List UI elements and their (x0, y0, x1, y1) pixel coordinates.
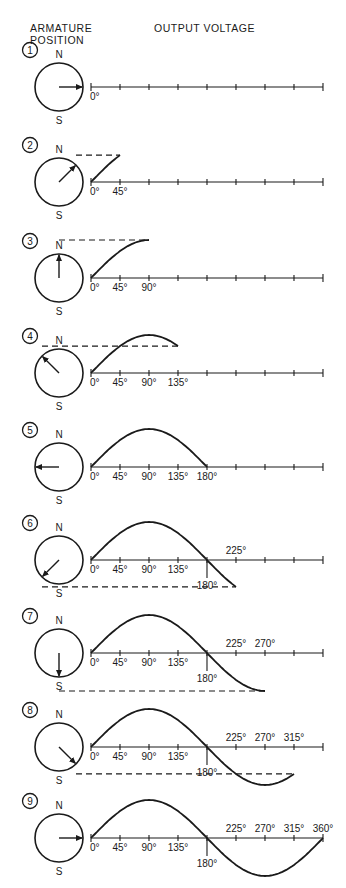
degree-label: 0° (90, 471, 100, 482)
degree-label: 315° (284, 823, 305, 834)
degree-label: 45° (112, 282, 127, 293)
voltage-sine-curve (91, 335, 178, 373)
step-number: 5 (27, 425, 33, 436)
degree-label: 0° (90, 282, 100, 293)
armature-conductor-arrow (43, 560, 59, 576)
degree-label: 90° (141, 657, 156, 668)
south-pole-label: S (56, 210, 63, 221)
voltage-sine-curve (91, 240, 149, 278)
degree-label: 90° (141, 842, 156, 853)
degree-label: 135° (168, 657, 189, 668)
south-pole-label: S (56, 495, 63, 506)
degree-label: 360° (313, 823, 334, 834)
armature-conductor-arrow (43, 357, 59, 373)
step-number: 1 (27, 45, 33, 56)
degree-label: 135° (168, 471, 189, 482)
north-pole-label: N (55, 240, 62, 251)
step-number: 4 (27, 331, 33, 342)
degree-label: 45° (112, 186, 127, 197)
north-pole-label: N (55, 429, 62, 440)
degree-label: 135° (168, 564, 189, 575)
north-pole-label: N (55, 522, 62, 533)
degree-label: 90° (141, 751, 156, 762)
degree-label: 0° (90, 564, 100, 575)
step-number: 2 (27, 140, 33, 151)
degree-label: 135° (168, 842, 189, 853)
step-number: 6 (27, 518, 33, 529)
north-pole-label: N (55, 615, 62, 626)
degree-label: 180° (197, 858, 218, 869)
north-pole-label: N (55, 709, 62, 720)
south-pole-label: S (56, 681, 63, 692)
south-pole-label: S (56, 401, 63, 412)
degree-label: 135° (168, 751, 189, 762)
degree-label: 0° (90, 657, 100, 668)
degree-label: 0° (90, 377, 100, 388)
north-pole-label: N (55, 335, 62, 346)
north-pole-label: N (55, 144, 62, 155)
step-number: 9 (27, 796, 33, 807)
degree-label: 90° (141, 282, 156, 293)
degree-label: 180° (197, 673, 218, 684)
south-pole-label: S (56, 866, 63, 877)
step-number: 7 (27, 611, 33, 622)
degree-label: 45° (112, 377, 127, 388)
degree-label: 180° (197, 580, 218, 591)
degree-label: 225° (226, 545, 247, 556)
step-number: 8 (27, 705, 33, 716)
voltage-sine-curve (91, 155, 120, 182)
degree-label: 90° (141, 377, 156, 388)
degree-label: 0° (90, 186, 100, 197)
degree-label: 315° (284, 732, 305, 743)
armature-conductor-arrow (59, 166, 75, 182)
degree-label: 0° (90, 842, 100, 853)
degree-label: 225° (226, 638, 247, 649)
step-number: 3 (27, 236, 33, 247)
north-pole-label: N (55, 49, 62, 60)
degree-label: 45° (112, 751, 127, 762)
south-pole-label: S (56, 775, 63, 786)
south-pole-label: S (56, 115, 63, 126)
degree-label: 45° (112, 564, 127, 575)
degree-label: 270° (255, 732, 276, 743)
degree-label: 225° (226, 823, 247, 834)
degree-label: 270° (255, 823, 276, 834)
voltage-sine-curve (91, 522, 236, 587)
degree-label: 45° (112, 657, 127, 668)
degree-label: 270° (255, 638, 276, 649)
degree-label: 90° (141, 471, 156, 482)
degree-label: 0° (90, 91, 100, 102)
generator-diagram: 1NS0°2NS0°45°3NS0°45°90°4NS0°45°90°135°5… (0, 0, 346, 888)
degree-label: 225° (226, 732, 247, 743)
voltage-sine-curve (91, 429, 207, 467)
degree-label: 45° (112, 471, 127, 482)
degree-label: 0° (90, 751, 100, 762)
degree-label: 45° (112, 842, 127, 853)
degree-label: 180° (197, 767, 218, 778)
degree-label: 90° (141, 564, 156, 575)
south-pole-label: S (56, 306, 63, 317)
north-pole-label: N (55, 800, 62, 811)
degree-label: 135° (168, 377, 189, 388)
armature-conductor-arrow (59, 747, 75, 763)
south-pole-label: S (56, 588, 63, 599)
degree-label: 180° (197, 471, 218, 482)
